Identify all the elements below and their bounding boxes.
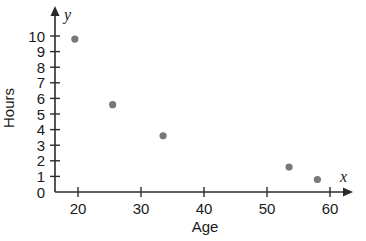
x-tick-label: 30 xyxy=(133,200,150,217)
x-axis-symbol-label: x xyxy=(339,168,347,185)
y-tick-label: 1 xyxy=(37,168,45,185)
x-tick-label: 50 xyxy=(259,200,276,217)
y-tick-label-group: 012345678910 xyxy=(28,28,45,201)
y-tick-label: 8 xyxy=(37,59,45,76)
y-tick-label: 5 xyxy=(37,106,45,123)
data-point xyxy=(314,176,321,183)
scatter-plot-figure: 012345678910 2030405060 y x Age Hours xyxy=(0,0,366,241)
plot-canvas: 012345678910 2030405060 y x Age Hours xyxy=(0,0,366,241)
y-axis-arrow-icon xyxy=(51,6,60,16)
y-tick-label: 10 xyxy=(28,28,45,45)
y-tick-label: 0 xyxy=(37,184,45,201)
x-tick-label: 40 xyxy=(196,200,213,217)
y-axis-title: Hours xyxy=(0,88,17,128)
x-tick-label-group: 2030405060 xyxy=(70,200,339,217)
data-point xyxy=(285,163,292,170)
y-tick-label: 9 xyxy=(37,43,45,60)
data-point xyxy=(159,132,166,139)
data-point xyxy=(71,36,78,43)
y-tick-label: 3 xyxy=(37,137,45,154)
x-axis-arrow-icon xyxy=(343,188,353,197)
x-axis-title: Age xyxy=(192,218,219,235)
data-point xyxy=(109,101,116,108)
data-point-group xyxy=(71,36,321,184)
y-tick-label: 4 xyxy=(37,121,45,138)
x-tick-label: 60 xyxy=(322,200,339,217)
y-axis-symbol-label: y xyxy=(62,6,72,24)
y-tick-label: 6 xyxy=(37,90,45,107)
x-tick-label: 20 xyxy=(70,200,87,217)
y-tick-label: 7 xyxy=(37,74,45,91)
y-tick-label: 2 xyxy=(37,152,45,169)
